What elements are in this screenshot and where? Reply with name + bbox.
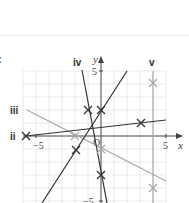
- line-label-v: v: [149, 57, 155, 68]
- cross-marker-icon: [72, 146, 80, 154]
- y-axis-label: y: [92, 53, 98, 65]
- line-label-ii: ii: [10, 131, 16, 142]
- x-tick-neg5: −5: [33, 140, 44, 151]
- axes: [23, 60, 180, 203]
- y-tick-5: 5: [92, 66, 97, 77]
- x-axis-label: x: [177, 139, 183, 151]
- line-label-iii: iii: [10, 105, 19, 116]
- coordinate-graph: −5 5 5 −5 x y O iv v iii ii: [0, 0, 189, 203]
- x-tick-5: 5: [163, 140, 168, 151]
- line-label-iv: iv: [73, 57, 82, 68]
- line-ii: [26, 120, 166, 136]
- y-tick-neg5: −5: [83, 196, 94, 203]
- y-axis-arrow-icon: [98, 56, 104, 63]
